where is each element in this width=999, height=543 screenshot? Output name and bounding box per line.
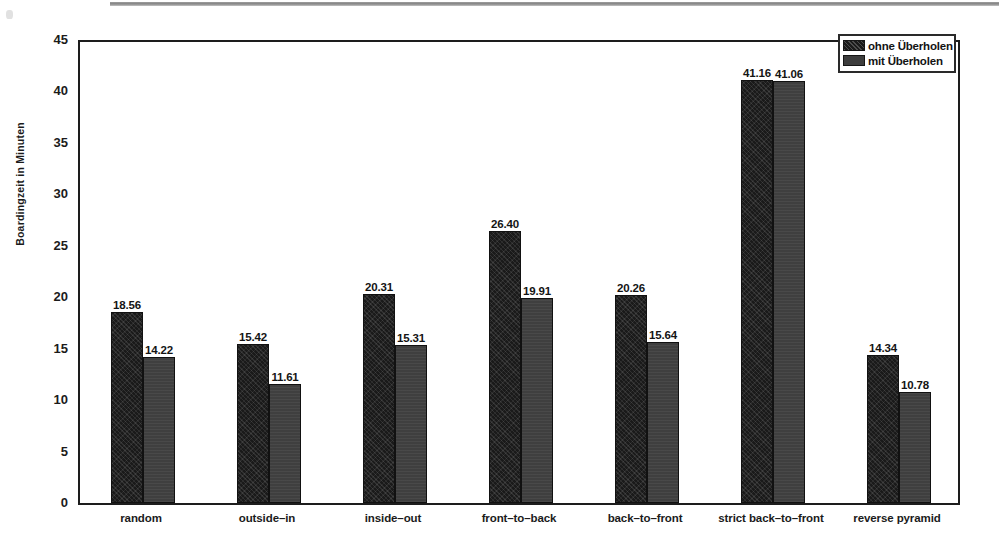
bar-value-label: 14.34 [869, 342, 897, 354]
y-axis-tick-label: 35 [54, 135, 68, 150]
y-axis-tick-label: 0 [61, 495, 68, 510]
bar: 26.40 [489, 231, 521, 503]
bar-value-label: 15.42 [239, 331, 267, 343]
y-axis-tick-label: 20 [54, 289, 68, 304]
bar: 20.26 [615, 295, 647, 503]
bar-value-label: 10.78 [901, 379, 929, 391]
x-axis-tick-label: inside–out [365, 512, 422, 524]
bar-value-label: 41.06 [775, 68, 803, 80]
bar-group: 20.3115.31 [363, 40, 427, 503]
bar: 10.78 [899, 392, 931, 503]
bar: 11.61 [269, 384, 301, 503]
legend-swatch-icon-series-b [843, 55, 865, 66]
bar-value-label: 41.16 [743, 67, 771, 79]
legend-entry-mit-ueberholen: mit Überholen [843, 53, 951, 68]
x-axis-tick-label: outside–in [239, 512, 296, 524]
bar-value-label: 14.22 [145, 344, 173, 356]
bar-group: 41.1641.06 [741, 40, 805, 503]
bar-value-label: 15.31 [397, 332, 425, 344]
legend-label-series-a: ohne Überholen [868, 40, 953, 52]
x-axis-tick-label: front–to–back [482, 512, 557, 524]
legend-label-series-b: mit Überholen [868, 55, 943, 67]
bar-value-label: 18.56 [113, 299, 141, 311]
legend-entry-ohne-ueberholen: ohne Überholen [843, 38, 951, 53]
bar-value-label: 20.31 [365, 281, 393, 293]
bar: 18.56 [111, 312, 143, 503]
bar: 15.42 [237, 344, 269, 503]
y-axis-tick-label: 25 [54, 238, 68, 253]
bar: 41.16 [741, 80, 773, 503]
bar-group: 20.2615.64 [615, 40, 679, 503]
bar-value-label: 20.26 [617, 282, 645, 294]
x-axis-tick-label: random [120, 512, 162, 524]
bar-value-label: 19.91 [523, 285, 551, 297]
bar-value-label: 15.64 [649, 329, 677, 341]
bar-group: 18.5614.22 [111, 40, 175, 503]
y-axis-tick-label: 30 [54, 186, 68, 201]
bar: 15.31 [395, 345, 427, 503]
legend-swatch-icon-series-a [843, 40, 865, 51]
bar: 14.22 [143, 357, 175, 503]
y-axis-tick-label: 45 [54, 32, 68, 47]
y-axis-tick-label: 40 [54, 83, 68, 98]
bar: 41.06 [773, 81, 805, 503]
bar: 14.34 [867, 355, 899, 503]
bar: 15.64 [647, 342, 679, 503]
y-axis-tick-label: 10 [54, 392, 68, 407]
x-axis-tick-label: strict back–to–front [718, 512, 823, 524]
y-axis-tick-label: 15 [54, 341, 68, 356]
y-axis-tick-label: 5 [61, 444, 68, 459]
bar: 20.31 [363, 294, 395, 503]
bar-value-label: 11.61 [271, 371, 298, 383]
bar-group: 14.3410.78 [867, 40, 931, 503]
chart-legend: ohne Überholen mit Überholen [838, 34, 956, 73]
bar-value-label: 26.40 [491, 218, 519, 230]
bar-group: 15.4211.61 [237, 40, 301, 503]
x-axis-tick-label: back–to–front [608, 512, 683, 524]
bar-group: 26.4019.91 [489, 40, 553, 503]
plot-area: 18.5614.2215.4211.6120.3115.3126.4019.91… [78, 40, 960, 505]
bar-chart-figure: Boardingzeit in Minuten 0510152025303540… [0, 0, 999, 543]
x-axis-tick-label: reverse pyramid [853, 512, 940, 524]
bar: 19.91 [521, 298, 553, 503]
y-axis-title: Boardingzeit in Minuten [14, 94, 26, 274]
